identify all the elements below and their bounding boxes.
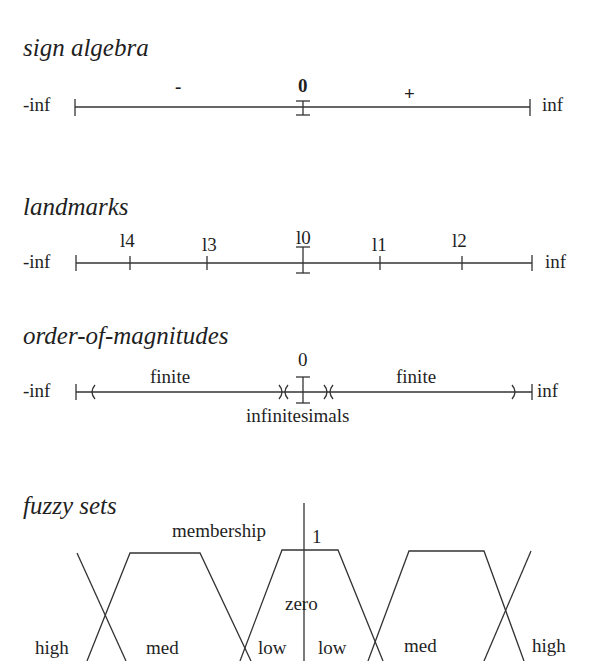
oom-finite-right: finite	[396, 366, 436, 388]
landmark-tick-l1: l1	[372, 234, 387, 256]
fuzzy-low-right-label: low	[318, 637, 347, 659]
fuzzy-high-left-label: high	[35, 637, 69, 659]
landmarks-neg-inf: -inf	[23, 251, 50, 273]
fuzzy-med-left-label: med	[146, 637, 179, 659]
fuzzy-high-right	[484, 551, 531, 661]
fuzzy-zero-label: zero	[285, 593, 318, 615]
landmark-tick-l4: l4	[120, 230, 135, 252]
fuzzy-med-right	[368, 551, 524, 661]
sign-algebra-plus: +	[404, 83, 415, 105]
landmarks-inf: inf	[545, 251, 566, 273]
sign-algebra-minus: -	[175, 76, 181, 98]
order-of-magnitudes-axis	[76, 377, 532, 403]
sign-algebra-zero: 0	[298, 75, 308, 97]
fuzzy-sets-title: fuzzy sets	[23, 492, 117, 520]
landmark-tick-l3: l3	[202, 234, 217, 256]
order-of-magnitudes-title: order-of-magnitudes	[23, 322, 229, 350]
fuzzy-high-right-label: high	[532, 635, 566, 657]
landmark-tick-l2: l2	[452, 230, 467, 252]
fuzzy-low-left-label: low	[258, 637, 287, 659]
oom-inf: inf	[537, 380, 558, 402]
fuzzy-membership-label: membership	[172, 520, 266, 542]
oom-finite-left: finite	[150, 366, 190, 388]
oom-neg-inf: -inf	[23, 380, 50, 402]
sign-algebra-inf: inf	[542, 94, 563, 116]
sign-algebra-axis	[75, 99, 530, 116]
sign-algebra-title: sign algebra	[23, 34, 149, 62]
sign-algebra-neg-inf: -inf	[23, 94, 50, 116]
landmarks-title: landmarks	[23, 193, 129, 221]
oom-zero: 0	[298, 349, 308, 371]
fuzzy-high-left	[77, 553, 126, 661]
fuzzy-one-label: 1	[312, 526, 322, 548]
oom-infinitesimals: infinitesimals	[246, 405, 349, 427]
fuzzy-med-right-label: med	[404, 635, 437, 657]
landmark-tick-l0: l0	[296, 227, 311, 249]
